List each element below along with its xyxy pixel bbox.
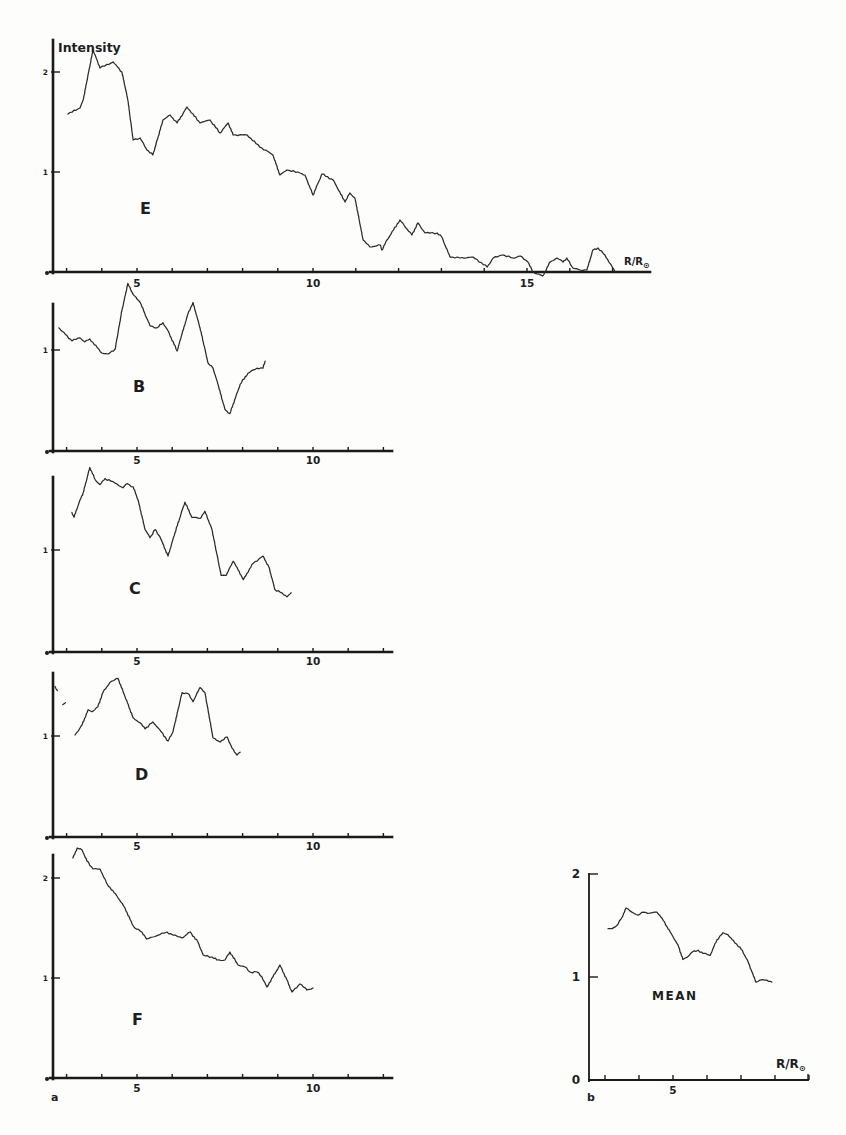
x-tick-label: 5 [669, 1084, 676, 1096]
x-axis-unit-label: R/R⊙ [624, 256, 650, 270]
chart-panel-f: 51012 [43, 848, 392, 1094]
panel-label-B: B [133, 377, 145, 396]
figure-part-b-label: b [587, 1091, 595, 1104]
panel-label-F: F [132, 1010, 143, 1029]
intensity-curve-mean [608, 908, 772, 982]
intensity-curve-f [73, 848, 313, 992]
y-tick-label: 1 [43, 346, 48, 355]
x-tick-label: 5 [133, 454, 140, 466]
panel-label-mean: MEAN [652, 989, 697, 1003]
chart-panel-c: 5101 [43, 467, 392, 667]
y-tick-label: 1 [43, 168, 48, 177]
solar-radius-symbol: ⊙ [799, 1064, 806, 1073]
y-tick-label: 1 [572, 970, 580, 984]
origin-dot-icon [45, 1077, 49, 1081]
intensity-curve-b [59, 283, 265, 413]
x-tick-label: 10 [306, 277, 321, 289]
y-tick-label: 2 [572, 867, 580, 881]
x-tick-label: 5 [133, 277, 140, 289]
x-tick-label: 10 [306, 1082, 321, 1094]
x-tick-label: 10 [306, 454, 321, 466]
x-tick-label: 10 [306, 840, 321, 852]
panel-label-C: C [129, 579, 141, 598]
panel-label-D: D [135, 765, 148, 784]
chart-panel-b: 5101 [43, 283, 392, 466]
x-tick-label: 10 [306, 655, 321, 667]
origin-dot-icon [45, 651, 49, 655]
y-tick-label: 1 [43, 974, 48, 983]
curve-fragment [63, 703, 66, 705]
origin-dot-icon [45, 271, 49, 275]
chart-panel-mean: 5012R/R⊙ [572, 867, 809, 1096]
chart-panel-e: 5101512R/R⊙ [43, 40, 650, 289]
figure-part-a-label: a [51, 1091, 58, 1104]
intensity-curve-d [75, 678, 240, 755]
x-tick-label: 5 [133, 1082, 140, 1094]
figure-page: 5101512R/R⊙510151015101510125012R/R⊙ Int… [0, 0, 846, 1135]
chart-panel-d: 5101 [43, 673, 392, 852]
solar-radius-symbol: ⊙ [643, 261, 650, 270]
panel-label-E: E [140, 199, 151, 218]
x-axis-unit-label: R/R⊙ [776, 1057, 806, 1073]
y-tick-label: 0 [572, 1073, 580, 1087]
intensity-curve-c [72, 467, 291, 597]
intensity-curve-e [68, 50, 615, 276]
y-tick-label: 1 [43, 732, 48, 741]
origin-dot-icon [45, 450, 49, 454]
chart-panels: 5101512R/R⊙510151015101510125012R/R⊙ [43, 40, 809, 1096]
x-tick-label: 5 [133, 840, 140, 852]
y-tick-label: 2 [43, 68, 48, 77]
x-tick-label: 5 [133, 655, 140, 667]
x-tick-label: 15 [520, 277, 535, 289]
y-tick-label: 1 [43, 546, 48, 555]
origin-dot-icon [45, 836, 49, 840]
curve-fragment [55, 687, 57, 691]
y-tick-label: 2 [43, 874, 48, 883]
intensity-profile-figure: 5101512R/R⊙510151015101510125012R/R⊙ Int… [0, 0, 846, 1135]
y-axis-title: Intensity [58, 40, 121, 55]
